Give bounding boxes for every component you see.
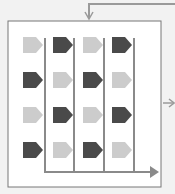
output-arrow [163,99,174,107]
diagram-canvas [0,0,175,194]
input-arrow [85,4,175,19]
